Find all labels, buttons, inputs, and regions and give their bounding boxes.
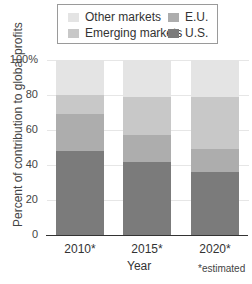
bar-2015 [123,60,171,235]
segment-other-markets [191,60,239,97]
bar-2020 [191,60,239,235]
x-axis-title: Year [127,259,151,273]
segment-eu [191,149,239,172]
x-tick-2010: 2010* [50,242,110,256]
segment-us [123,162,171,236]
estimated-footnote: *estimated [198,263,245,274]
segment-emerging-markets [191,97,239,150]
bar-2010 [56,60,104,235]
y-axis-title: Percent of contribution to global profit… [11,67,25,227]
segment-us [56,151,104,235]
segment-us [191,172,239,235]
x-tick-2015: 2015* [117,242,177,256]
segment-emerging-markets [56,95,104,114]
segment-emerging-markets [123,97,171,136]
segment-eu [123,135,171,161]
x-axis-line [46,235,248,236]
plot-area: 100% 80 60 40 20 0 Percent of contributi… [0,0,252,284]
segment-other-markets [56,60,104,95]
segment-eu [56,114,104,151]
x-tick-2020: 2020* [185,242,245,256]
segment-other-markets [123,60,171,97]
y-tick-0: 0 [8,228,38,240]
